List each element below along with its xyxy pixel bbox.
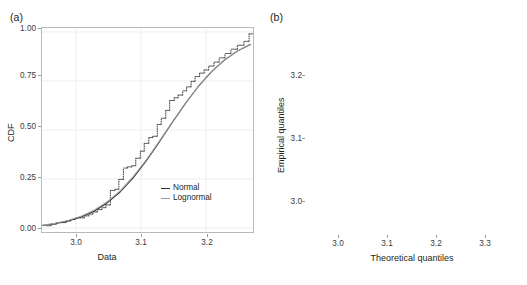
panel-a-curve-normal: [42, 44, 250, 225]
panel-a-ytick-0: 0.00: [8, 224, 36, 233]
panel-b-ytick-mark-1: [302, 138, 305, 139]
panel-a: (a) 0.00 0.25 0.50 0.75 1.00 3.0 3.1 3.2…: [0, 0, 264, 285]
legend-normal-label: Normal: [173, 183, 199, 193]
legend-normal-swatch-icon: [161, 188, 170, 189]
panel-b-ytick-2: 3.2: [278, 71, 302, 80]
panel-a-ytick-3: 0.75: [8, 71, 36, 80]
panel-a-label: (a): [10, 11, 23, 23]
panel-a-ytick-mark-0: [38, 228, 41, 229]
panel-b-ytick-0: 3.0: [278, 197, 302, 206]
panel-a-ytick-4: 1.00: [8, 24, 36, 33]
panel-a-ylabel: CDF: [6, 124, 16, 143]
panel-a-ytick-mark-1: [38, 177, 41, 178]
panel-b-label: (b): [270, 11, 283, 23]
panel-b-ytick-mark-2: [302, 75, 305, 76]
panel-a-plot-inner: [42, 28, 253, 232]
panel-a-xtick-mark-2: [207, 234, 208, 237]
panel-b-xtick-1: 3.1: [375, 239, 399, 248]
panel-a-xtick-0: 3.0: [64, 238, 88, 247]
panel-b-ytick-mark-0: [302, 201, 305, 202]
panel-a-xtick-mark-1: [141, 234, 142, 237]
panel-a-ytick-1: 0.25: [8, 173, 36, 182]
panel-b-xtick-mark-2: [436, 235, 437, 238]
panel-a-ytick-mark-3: [38, 75, 41, 76]
panel-a-xlabel: Data: [67, 252, 147, 262]
panel-a-xtick-1: 3.1: [129, 238, 153, 247]
panel-a-ytick-mark-4: [38, 28, 41, 29]
legend-item-lognormal[interactable]: Lognormal: [161, 193, 212, 203]
panel-b-xtick-mark-3: [485, 235, 486, 238]
panel-b-xtick-2: 3.2: [424, 239, 448, 248]
panel-b-xtick-mark-1: [387, 235, 388, 238]
panel-b-ylabel: Empirical quantiles: [276, 97, 286, 173]
panel-a-gridlines: [42, 28, 253, 232]
legend-item-normal[interactable]: Normal: [161, 183, 212, 193]
panel-a-xtick-2: 3.2: [195, 238, 219, 247]
panel-a-legend: Normal Lognormal: [161, 183, 212, 203]
figure-root: (a) 0.00 0.25 0.50 0.75 1.00 3.0 3.1 3.2…: [0, 0, 527, 285]
panel-b-xtick-3: 3.3: [473, 239, 497, 248]
panel-b-xtick-mark-0: [338, 235, 339, 238]
panel-b-xlabel: Theoretical quantiles: [332, 253, 492, 263]
panel-b: (b) 3.0 3.1 3.2 3.0 3.1 3.2 3.3 Theoreti…: [264, 0, 527, 285]
panel-a-plot-area: [41, 27, 254, 233]
legend-lognormal-label: Lognormal: [173, 193, 212, 203]
panel-a-ytick-mark-2: [38, 126, 41, 127]
panel-b-xtick-0: 3.0: [326, 239, 350, 248]
panel-a-curve-lognormal: [42, 44, 250, 225]
panel-a-xtick-mark-0: [76, 234, 77, 237]
panel-a-canvas: [42, 28, 253, 232]
legend-lognormal-swatch-icon: [161, 198, 170, 199]
